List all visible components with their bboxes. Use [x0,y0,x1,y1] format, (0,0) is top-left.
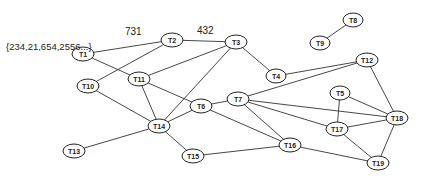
node-label: T8 [349,17,357,24]
node-t12: T12 [356,53,378,67]
edge-t13-t14 [74,126,159,151]
node-label: T10 [82,83,94,90]
node-label: T6 [197,103,205,110]
edge-t7-t16 [238,99,290,145]
node-t5: T5 [330,86,350,100]
node-label: T14 [153,123,165,130]
node-t9: T9 [310,36,330,50]
node-t11: T11 [128,72,150,86]
edge-t10-t14 [88,86,159,126]
node-t15: T15 [182,149,204,163]
edge-t7-t17 [238,99,337,129]
node-label: T5 [336,90,344,97]
edge-weight-label: 731 [125,26,142,37]
node-layer: T1T2T3T4T5T6T7T8T9T10T11T12T13T14T15T16T… [63,13,408,170]
edge-t16-t19 [290,145,378,163]
node-t13: T13 [63,144,85,158]
edge-t15-t16 [193,145,290,156]
edge-t3-t14 [159,42,236,126]
node-label: T16 [284,142,296,149]
node-annotation: {234,21,654,2556...} [6,41,92,52]
node-t4: T4 [266,69,286,83]
edge-t12-t18 [367,60,397,118]
node-t16: T16 [279,138,301,152]
graph-diagram: 731432 T1T2T3T4T5T6T7T8T9T10T11T12T13T14… [0,0,423,187]
node-t14: T14 [148,119,170,133]
node-t17: T17 [326,122,348,136]
node-label: T15 [187,153,199,160]
node-t18: T18 [386,111,408,125]
edge-t7-t18 [238,99,397,118]
node-label: T1 [79,51,87,58]
node-label: T4 [272,73,280,80]
node-t6: T6 [190,99,212,113]
node-t10: T10 [77,79,99,93]
edge-weight-label: 432 [197,25,214,36]
edge-t3-t11 [139,42,236,79]
node-label: T9 [316,40,324,47]
node-t3: T3 [225,35,247,49]
node-label: T11 [133,76,145,83]
node-label: T19 [372,160,384,167]
node-t2: T2 [161,33,183,47]
node-label: T12 [361,57,373,64]
node-label: T17 [331,126,343,133]
node-label: T13 [68,148,80,155]
node-t19: T19 [367,156,389,170]
node-label: T2 [168,37,176,44]
node-label: T3 [232,39,240,46]
node-label: T7 [234,96,242,103]
node-t7: T7 [227,92,249,106]
node-t8: T8 [343,13,363,27]
node-label: T18 [391,115,403,122]
edge-t6-t16 [201,106,290,145]
